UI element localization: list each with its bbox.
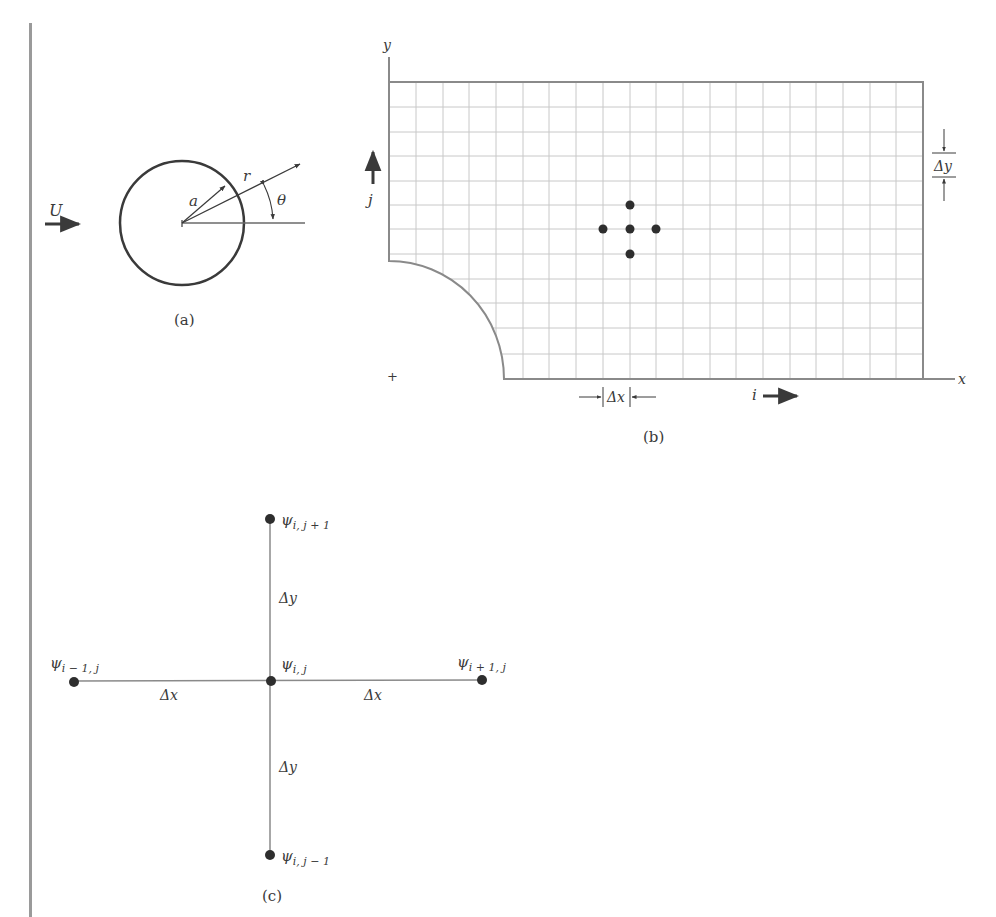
node-right [477, 675, 487, 685]
node-bottom [265, 850, 275, 860]
page-margin-bar [29, 23, 32, 917]
node-left [69, 677, 79, 687]
j-index-label: j [365, 191, 373, 209]
panel-b-caption: (b) [643, 428, 664, 446]
figure-canvas: U a r θ (a) [0, 0, 996, 917]
node-right-label: ψi + 1, j [457, 653, 506, 674]
panel-b-grid: y x j i + Δx Δy (b) [365, 37, 966, 446]
panel-c-caption: (c) [262, 887, 282, 905]
dx-left-label: Δx [159, 687, 178, 703]
panel-a-cylinder: U a r θ (a) [45, 161, 305, 329]
dy-bottom-label: Δy [278, 759, 298, 775]
y-axis-label: y [382, 37, 392, 53]
radial-label: r [243, 167, 251, 185]
angle-arc-icon [264, 185, 273, 219]
horizontal-stencil-line [73, 680, 482, 681]
node-top-label: ψi, j + 1 [281, 511, 330, 532]
angle-label: θ [277, 191, 286, 209]
x-axis-label: x [958, 371, 966, 387]
freestream-label: U [49, 201, 63, 220]
origin-mark: + [387, 369, 398, 384]
node-top [265, 514, 275, 524]
node-center-label: ψi, j [281, 655, 307, 676]
dx-right-label: Δx [363, 687, 382, 703]
node-center [266, 676, 276, 686]
node-bottom-label: ψi, j − 1 [281, 847, 330, 868]
dy-dimension-label: Δy [933, 158, 953, 174]
node-left-label: ψi − 1, j [50, 654, 99, 675]
i-index-label: i [752, 386, 757, 404]
dy-top-label: Δy [278, 590, 298, 606]
panel-c-stencil: ψi, j + 1 ψi, j ψi − 1, j ψi + 1, j ψi, … [50, 511, 506, 905]
panel-a-caption: (a) [174, 311, 195, 329]
radius-label: a [189, 192, 198, 210]
dx-dimension-label: Δx [606, 389, 625, 405]
